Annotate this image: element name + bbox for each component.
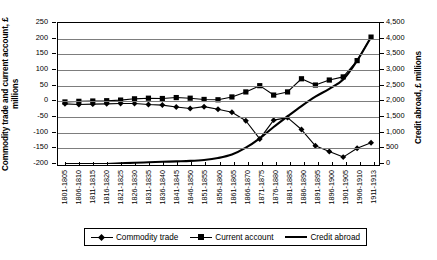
data-point-marker: [173, 104, 179, 110]
x-axis-tick-label: 1896-1900: [327, 170, 336, 204]
gridline: [58, 101, 379, 102]
gridline: [58, 148, 379, 149]
x-tick: [290, 162, 291, 165]
y-tick: [380, 163, 384, 164]
legend-item[interactable]: Commodity trade: [91, 233, 178, 242]
x-axis-tick-label: 1866-1870: [243, 170, 252, 204]
y-tick: [52, 85, 56, 86]
y-tick: [52, 116, 56, 117]
y-axis-left-tick-label: -100: [18, 128, 48, 136]
data-point-marker: [201, 104, 207, 110]
x-axis-tick-label: 1901-1905: [341, 170, 350, 204]
data-point-marker: [145, 101, 151, 107]
x-tick: [332, 162, 333, 165]
y-tick: [52, 100, 56, 101]
gridline: [58, 86, 379, 87]
y-tick: [52, 69, 56, 70]
x-tick: [304, 162, 305, 165]
y-tick: [380, 132, 384, 133]
y-tick: [380, 147, 384, 148]
data-point-marker: [159, 102, 165, 108]
x-tick: [93, 162, 94, 165]
legend-item[interactable]: Current account: [190, 233, 273, 242]
x-axis-tick-label: 1911-1913: [369, 170, 378, 204]
x-axis-tick-label: 1881-1885: [285, 170, 294, 204]
data-point-marker: [285, 89, 290, 94]
y-tick: [52, 22, 56, 23]
y-tick: [380, 38, 384, 39]
y-axis-left-tick-label: 100: [18, 65, 48, 73]
x-tick: [374, 162, 375, 165]
data-point-marker: [188, 96, 193, 101]
y-tick: [380, 53, 384, 54]
data-point-marker: [271, 92, 276, 97]
x-axis-tick-label: 1846-1850: [186, 170, 195, 204]
x-tick: [149, 162, 150, 165]
x-tick: [276, 162, 277, 165]
x-axis-tick-label: 1806-1810: [74, 170, 83, 204]
y-axis-left-tick-label: -150: [18, 143, 48, 151]
data-point-marker: [215, 106, 221, 112]
y-tick: [380, 69, 384, 70]
y-axis-left-tick-label: 150: [18, 49, 48, 57]
chart-figure: Commodity trade and current account, £ m…: [0, 0, 437, 260]
y-tick: [52, 163, 56, 164]
data-point-marker: [340, 154, 346, 160]
x-tick: [234, 162, 235, 165]
y-axis-right-tick-label: 1,000: [386, 128, 418, 136]
y-axis-left-tick-label: 200: [18, 34, 48, 42]
plot-area: [57, 22, 380, 166]
data-point-marker: [160, 96, 165, 101]
x-tick: [346, 162, 347, 165]
legend-item[interactable]: Credit abroad: [285, 233, 360, 242]
y-axis-right-tick-label: 4,500: [386, 18, 418, 26]
x-axis-tick-label: 1831-1835: [144, 170, 153, 204]
y-tick: [52, 38, 56, 39]
data-point-marker: [174, 95, 179, 100]
legend-diamond-icon: [91, 233, 113, 242]
x-tick: [205, 162, 206, 165]
legend-label: Current account: [215, 233, 273, 242]
x-axis-tick-label: 1891-1895: [313, 170, 322, 204]
data-point-marker: [368, 140, 374, 146]
x-tick: [248, 162, 249, 165]
y-axis-right-tick-label: 0: [386, 159, 418, 167]
x-axis-tick-label: 1906-1910: [355, 170, 364, 204]
gridline: [58, 70, 379, 71]
gridline: [58, 39, 379, 40]
y-axis-right-tick-label: 1,500: [386, 112, 418, 120]
x-axis-tick-label: 1886-1890: [299, 170, 308, 204]
data-point-marker: [327, 77, 332, 82]
y-tick: [52, 53, 56, 54]
x-axis-tick-label: 1841-1845: [172, 170, 181, 204]
data-point-marker: [229, 109, 235, 115]
y-axis-right-tick-label: 3,500: [386, 49, 418, 57]
series-commodity-trade: [62, 101, 374, 161]
y-axis-left-tick-label: -50: [18, 112, 48, 120]
y-tick: [52, 132, 56, 133]
x-axis-tick-label: 1836-1840: [158, 170, 167, 204]
x-tick: [79, 162, 80, 165]
data-point-marker: [187, 106, 193, 112]
x-axis-tick-label: 1816-1820: [102, 170, 111, 204]
x-tick: [191, 162, 192, 165]
legend-square-icon: [190, 233, 212, 242]
x-axis-tick-label: 1811-1815: [88, 170, 97, 204]
y-tick: [380, 85, 384, 86]
gridline: [58, 54, 379, 55]
x-axis-tick-label: 1856-1860: [215, 170, 224, 204]
x-axis-tick-label: 1876-1880: [271, 170, 280, 204]
y-tick: [380, 100, 384, 101]
series-canvas: [58, 23, 378, 164]
x-tick: [121, 162, 122, 165]
y-axis-right-tick-label: 500: [386, 143, 418, 151]
y-axis-left-tick-label: 250: [18, 18, 48, 26]
y-axis-left-tick-label: -200: [18, 159, 48, 167]
x-axis-tick-label: 1871-1875: [257, 170, 266, 204]
y-axis-left-title: Commodity trade and current account, £ m…: [1, 6, 21, 182]
x-tick: [262, 162, 263, 165]
x-tick: [65, 162, 66, 165]
x-axis-tick-label: 1801-1805: [60, 170, 69, 204]
y-axis-left-tick-label: 0: [18, 96, 48, 104]
data-point-marker: [326, 148, 332, 154]
